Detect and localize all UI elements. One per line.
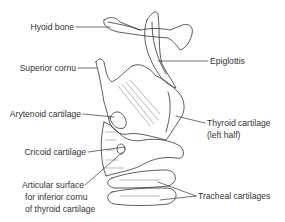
hyoid-bone-shape — [104, 18, 193, 50]
arytenoid-cartilage-shape — [110, 112, 126, 129]
cricoid-cartilage-shape — [101, 122, 183, 176]
label-articular-surface-2: for inferior cornu — [25, 192, 88, 202]
leader-lines — [76, 27, 208, 200]
label-epiglottis: Epiglottis — [210, 56, 245, 66]
tracheal-cartilages-shape — [108, 170, 176, 206]
thyroid-cartilage-shape — [96, 59, 184, 140]
label-tracheal-cartilages: Tracheal cartilages — [198, 191, 270, 201]
label-hyoid-bone: Hyoid bone — [0, 22, 74, 32]
epiglottis-shape — [145, 12, 176, 88]
label-articular-surface-1: Articular surface — [0, 180, 84, 190]
label-thyroid-cartilage: Thyroid cartilage — [207, 118, 271, 128]
label-superior-cornu: Superior cornu — [0, 63, 76, 73]
label-cricoid-cartilage: Cricoid cartilage — [0, 147, 86, 157]
label-thyroid-left-half: (left half) — [207, 130, 240, 140]
label-articular-surface-3: of thyroid cartilage — [25, 204, 95, 214]
label-arytenoid-cartilage: Arytenoid cartilage — [0, 109, 81, 119]
